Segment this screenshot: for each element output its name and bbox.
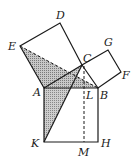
label-D: D <box>55 9 65 22</box>
label-G: G <box>104 36 113 49</box>
label-E: E <box>7 40 16 53</box>
label-C: C <box>83 52 92 65</box>
label-B: B <box>99 89 108 102</box>
label-A: A <box>32 86 41 99</box>
label-H: H <box>100 137 111 150</box>
label-M: M <box>77 146 90 159</box>
label-K: K <box>30 137 40 150</box>
label-F: F <box>121 69 130 82</box>
pythagorean-proof-diagram: D E C G F A L B K H M <box>0 0 140 165</box>
label-L: L <box>85 89 93 102</box>
